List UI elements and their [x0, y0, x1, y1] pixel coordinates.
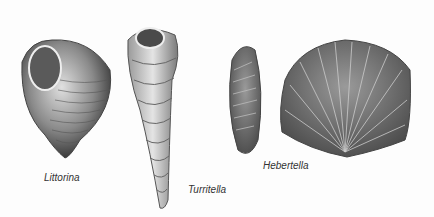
- littorina-shell-icon: [22, 40, 111, 158]
- turritella-shell-icon: [128, 28, 178, 208]
- label-littorina: Littorina: [44, 172, 80, 183]
- hebertella-front-view-icon: [281, 40, 411, 157]
- hebertella-side-view-icon: [230, 47, 261, 154]
- label-turritella: Turritella: [188, 184, 226, 195]
- label-hebertella: Hebertella: [263, 160, 309, 171]
- fossil-illustration: Littorina Turritella Hebertella: [0, 0, 434, 217]
